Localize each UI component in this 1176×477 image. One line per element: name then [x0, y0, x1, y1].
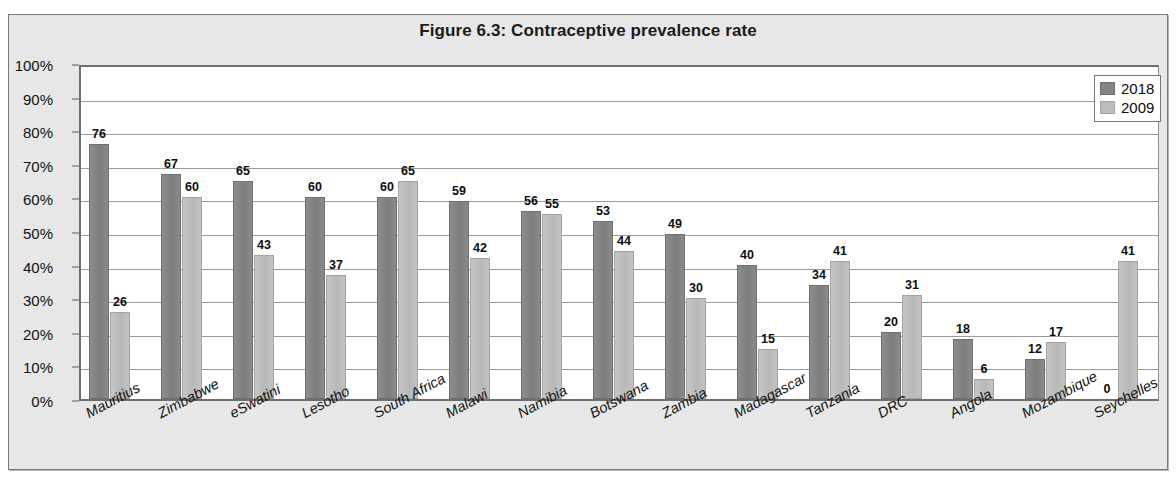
bar-2009-seychelles[interactable] [1118, 261, 1138, 399]
y-axis-tick-label: 60% [0, 191, 53, 208]
y-axis-tick-label: 20% [0, 325, 53, 342]
bar-2009-botswana[interactable] [614, 251, 634, 399]
bar-value-label: 41 [1108, 244, 1148, 258]
legend-item-2009: 2009 [1100, 98, 1154, 117]
y-axis-tick-mark [72, 199, 79, 200]
bar-group: 5344 [585, 67, 657, 399]
bar-2018-zambia[interactable] [665, 234, 685, 399]
bar-value-label: 65 [223, 164, 263, 178]
bar-2018-tanzania[interactable] [809, 285, 829, 399]
y-axis-tick-mark [72, 233, 79, 234]
y-axis-tick-mark [72, 300, 79, 301]
bar-value-label: 42 [460, 241, 500, 255]
bar-2018-zimbabwe[interactable] [161, 174, 181, 399]
bar-value-label: 60 [295, 180, 335, 194]
legend-swatch-2009-icon [1100, 101, 1115, 114]
bar-value-label: 37 [316, 258, 356, 272]
bar-group: 4015 [729, 67, 801, 399]
y-axis-tick-mark [72, 132, 79, 133]
bar-2009-tanzania[interactable] [830, 261, 850, 399]
bar-2018-mauritius[interactable] [89, 144, 109, 399]
bar-value-label: 43 [244, 238, 284, 252]
legend-swatch-2018-icon [1100, 82, 1115, 95]
bar-value-label: 49 [655, 217, 695, 231]
bar-group: 6037 [297, 67, 369, 399]
bar-value-label: 41 [820, 244, 860, 258]
bar-2009-zimbabwe[interactable] [182, 197, 202, 399]
bar-2018-namibia[interactable] [521, 211, 541, 399]
bar-group: 7626 [81, 67, 153, 399]
chart-title: Figure 6.3: Contraceptive prevalence rat… [9, 21, 1167, 41]
bar-2009-eswatini[interactable] [254, 255, 274, 399]
bar-value-label: 44 [604, 234, 644, 248]
bar-2009-malawi[interactable] [470, 258, 490, 399]
bar-group: 5942 [441, 67, 513, 399]
bar-value-label: 53 [583, 204, 623, 218]
bar-value-label: 18 [943, 322, 983, 336]
bar-2009-drc[interactable] [902, 295, 922, 399]
bar-group: 6065 [369, 67, 441, 399]
y-axis-tick-mark [72, 333, 79, 334]
y-axis-tick-mark [72, 266, 79, 267]
bar-value-label: 26 [100, 295, 140, 309]
bar-group: 6760 [153, 67, 225, 399]
plot-area: 7626676065436037606559425655534449304015… [79, 65, 1159, 401]
bar-2009-lesotho[interactable] [326, 275, 346, 399]
bar-group: 3441 [801, 67, 873, 399]
chart-legend: 2018 2009 [1094, 75, 1161, 122]
x-axis-labels: MauritiusZimbabweeSwatiniLesothoSouth Af… [79, 403, 1159, 469]
legend-item-2018: 2018 [1100, 79, 1154, 98]
y-axis-tick-label: 10% [0, 359, 53, 376]
y-axis-tick-label: 50% [0, 225, 53, 242]
y-axis-tick-mark [72, 401, 79, 402]
bar-value-label: 76 [79, 127, 119, 141]
bar-group: 2031 [873, 67, 945, 399]
y-axis-tick-mark [72, 367, 79, 368]
bar-2018-south-africa[interactable] [377, 197, 397, 399]
y-axis-tick-label: 80% [0, 124, 53, 141]
bar-group: 6543 [225, 67, 297, 399]
y-axis-tick-mark [72, 165, 79, 166]
y-axis-tick-label: 100% [0, 57, 53, 74]
bar-2018-drc[interactable] [881, 332, 901, 399]
bar-value-label: 60 [172, 180, 212, 194]
bar-group: 1217 [1017, 67, 1089, 399]
bar-value-label: 59 [439, 184, 479, 198]
y-axis-tick-label: 30% [0, 292, 53, 309]
bar-value-label: 17 [1036, 325, 1076, 339]
bar-value-label: 40 [727, 248, 767, 262]
legend-label-2018: 2018 [1121, 81, 1154, 96]
bar-value-label: 55 [532, 197, 572, 211]
y-axis-tick-label: 0% [0, 393, 53, 410]
chart-screenshot: Figure 6.3: Contraceptive prevalence rat… [0, 0, 1176, 477]
bar-2009-zambia[interactable] [686, 298, 706, 399]
bar-group: 4930 [657, 67, 729, 399]
y-axis-tick-mark [72, 65, 79, 66]
bar-value-label: 30 [676, 281, 716, 295]
bar-2018-lesotho[interactable] [305, 197, 325, 399]
bar-2018-mozambique[interactable] [1025, 359, 1045, 399]
y-axis-tick-label: 40% [0, 258, 53, 275]
bar-value-label: 65 [388, 164, 428, 178]
bar-value-label: 6 [964, 362, 1004, 376]
chart-frame: Figure 6.3: Contraceptive prevalence rat… [8, 14, 1168, 470]
bar-2009-south-africa[interactable] [398, 181, 418, 399]
y-axis-tick-label: 90% [0, 90, 53, 107]
bar-group: 5655 [513, 67, 585, 399]
legend-label-2009: 2009 [1121, 100, 1154, 115]
y-axis-tick-label: 70% [0, 157, 53, 174]
bar-value-label: 15 [748, 332, 788, 346]
bar-2018-eswatini[interactable] [233, 181, 253, 399]
bar-value-label: 67 [151, 157, 191, 171]
y-axis-tick-mark [72, 98, 79, 99]
bar-2009-namibia[interactable] [542, 214, 562, 399]
bar-2018-malawi[interactable] [449, 201, 469, 399]
bars-layer: 7626676065436037606559425655534449304015… [81, 67, 1158, 399]
bar-value-label: 31 [892, 278, 932, 292]
bar-group: 186 [945, 67, 1017, 399]
